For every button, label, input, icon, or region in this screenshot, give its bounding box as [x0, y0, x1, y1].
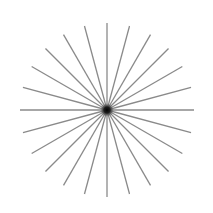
spoke-line: [107, 110, 130, 194]
spoke-line: [107, 26, 130, 110]
starburst-spokes: [0, 0, 213, 213]
spoke-line: [84, 110, 107, 194]
center-hub: [100, 103, 114, 117]
starburst-figure: [0, 0, 213, 213]
spoke-line: [23, 87, 107, 110]
spoke-line: [84, 26, 107, 110]
spoke-line: [107, 87, 191, 110]
spoke-line: [23, 110, 107, 133]
spoke-line: [107, 110, 191, 133]
